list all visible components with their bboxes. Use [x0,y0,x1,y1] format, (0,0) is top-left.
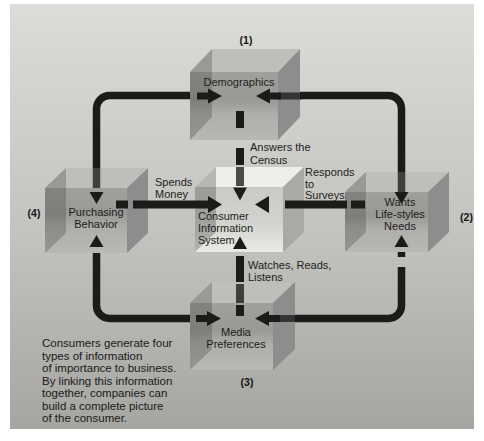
number-label-demographics: (1) [240,34,253,46]
surveys-label-line3: Surveys [305,189,345,201]
media-box-label-line1: Media [221,326,252,338]
loop-through-demographics-side [278,93,302,100]
census-arrow-dash [236,111,244,128]
caption-line3: of importance to business. [42,362,176,374]
loop-dash-gap [395,257,406,267]
census-label-line2: Census [250,154,288,166]
number-label-media: (3) [241,376,254,388]
arrow-tail [270,93,281,100]
caption-line2: types of information [42,350,142,362]
watches-arrow-through-media-top [236,284,244,303]
loop-through-purchasing-top [93,168,101,188]
caption-line1: Consumers generate four [42,337,173,349]
wants-box-label-line3: Needs [384,220,416,232]
purchasing-box-label-line1: Purchasing [68,206,123,218]
census-arrow-through-center-top [236,167,244,186]
census-label-line1: Answers the [250,141,311,153]
center-box-label-line2: Information [198,222,253,234]
census-arrow-dash [236,148,244,165]
surveys-label-line1: Responds [305,166,355,178]
spends-label-line2: Money [155,188,189,200]
media-box-label-line2: Preferences [206,338,266,350]
caption-line5: together, companies can [42,387,167,399]
watches-label-line2: Listens [248,271,283,283]
spends-arrow-shaft [133,201,208,209]
number-label-purchasing: (4) [28,207,41,219]
caption-line6: build a complete picture [42,400,163,412]
center-box-label-line1: Consumer [198,210,249,222]
number-label-wants: (2) [460,211,473,223]
watches-arrow-dash [236,256,244,282]
purchasing-box-label-line2: Behavior [74,218,118,230]
purchasing-box-label: Purchasing Behavior [68,206,123,230]
arrow-tail [196,315,207,322]
wants-box-label-line1: Wants [385,196,416,208]
arrow-tail [269,315,280,322]
surveys-label-line2: to [305,178,314,190]
figure-page: (1) (2) (3) (4) Demographics Purchasing … [0,0,484,441]
spends-connector-label: Spends Money [155,176,193,200]
loop-through-wants-top [398,172,406,192]
demographics-box-label: Demographics [204,76,275,88]
watches-label-line1: Watches, Reads, [248,259,331,271]
caption-line7: of the consumer. [42,412,127,424]
center-box-label-line3: System [198,234,235,246]
arrow-tail [197,93,208,100]
surveys-arrow-shaft [285,201,347,209]
caption-line4: By linking this information [42,375,172,387]
wants-box-label-line2: Life-styles [375,208,425,220]
surveys-arrow-dash [351,201,365,209]
watches-arrow-dash [236,305,244,316]
spends-label-line1: Spends [155,176,193,188]
consumer-information-system-diagram: (1) (2) (3) (4) Demographics Purchasing … [0,0,484,441]
